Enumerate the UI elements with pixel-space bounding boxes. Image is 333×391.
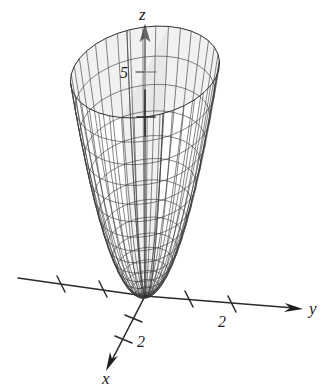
z-tick-label-5: 5 bbox=[120, 64, 128, 81]
x-axis-tick-1 bbox=[125, 315, 142, 322]
y-axis-positive-line bbox=[145, 296, 294, 308]
y-axis-negative-line bbox=[18, 278, 145, 296]
paraboloid-surface-plot: z y x 5 2 2 bbox=[0, 0, 333, 391]
z-axis-label: z bbox=[138, 5, 146, 24]
y-axis-positive-group bbox=[145, 291, 303, 312]
x-axis-label: x bbox=[101, 369, 110, 388]
figure-container: z y x 5 2 2 bbox=[0, 0, 333, 391]
paraboloid-mesh bbox=[70, 26, 219, 298]
x-axis-line bbox=[111, 296, 145, 362]
y-tick-label-2: 2 bbox=[218, 313, 226, 330]
y-axis-label: y bbox=[307, 299, 317, 318]
x-tick-label-2: 2 bbox=[137, 333, 145, 350]
